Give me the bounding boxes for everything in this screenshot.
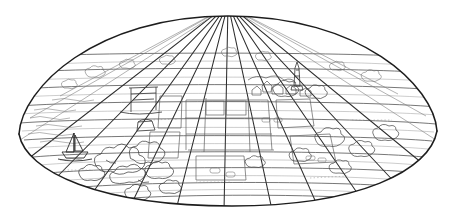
field-plots-hotspot[interactable] xyxy=(202,99,254,151)
town-cluster-hotspot[interactable] xyxy=(257,77,293,113)
dome-landscape-drawing xyxy=(0,0,453,216)
tree-cluster-left-hotspot[interactable] xyxy=(101,141,149,189)
scene-hotspots xyxy=(59,60,352,189)
obelisk-monument-hotspot[interactable] xyxy=(284,60,308,84)
sailboat-hotspot[interactable] xyxy=(59,136,91,168)
bridge-frame-hotspot[interactable] xyxy=(126,81,158,113)
illustration-canvas xyxy=(0,0,453,216)
tree-cluster-right-hotspot[interactable] xyxy=(308,118,352,162)
